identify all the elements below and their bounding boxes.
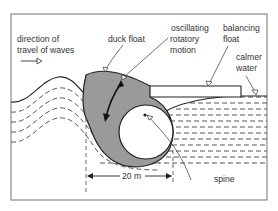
calmer-water-pointer-icon <box>252 90 258 95</box>
wave-energy-diagram: 20 m direction of travel of waves duck f… <box>0 0 278 211</box>
dimension-label: 20 m <box>122 171 141 181</box>
calmer-water-leader <box>246 76 254 90</box>
duck-float-leader <box>106 45 123 69</box>
oscillating-label-line1: oscillating <box>171 23 209 33</box>
direction-arrow-icon <box>37 58 42 64</box>
direction-label-line1: direction of <box>17 34 60 44</box>
dimension-arrowhead-right <box>166 173 172 179</box>
oscillating-label-line3: motion <box>170 45 196 55</box>
dimension-arrowhead-left <box>87 173 93 179</box>
balancing-float-pointer-icon <box>206 81 212 86</box>
calmer-water-label-line1: calmer <box>236 52 262 62</box>
spine-center-dot <box>143 113 146 116</box>
wave-surface <box>11 77 90 102</box>
duck-float-label: duck float <box>108 34 145 44</box>
balancing-float-label-line2: float <box>223 34 240 44</box>
calmer-water-label-line2: water <box>235 63 257 73</box>
direction-label-line2: travel of waves <box>17 45 74 55</box>
balancing-float-leader <box>210 46 228 82</box>
spine-cylinder[interactable] <box>119 105 173 159</box>
oscillating-label-line2: rotatory <box>170 34 200 44</box>
spine-label: spine <box>214 174 235 184</box>
balancing-float[interactable] <box>150 86 241 97</box>
balancing-float-label-line1: balancing <box>223 23 260 33</box>
